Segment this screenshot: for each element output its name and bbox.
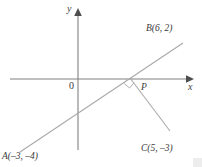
- line-segment-pc: [130, 78, 170, 131]
- line-segment-ab: [20, 43, 183, 152]
- point-label-c: C(5, –3): [141, 144, 173, 154]
- y-axis-label: y: [67, 4, 71, 14]
- coordinate-geometry-diagram: y x 0 B(6, 2) P C(5, –3) A(–3, –4): [0, 0, 202, 167]
- x-axis-label: x: [188, 82, 192, 92]
- point-label-a: A(–3, –4): [2, 152, 38, 162]
- y-axis-arrowhead: [74, 8, 82, 16]
- origin-label: 0: [69, 81, 74, 91]
- point-label-p: P: [141, 83, 147, 93]
- corner-artifact: [193, 158, 202, 167]
- point-label-b: B(6, 2): [146, 24, 172, 34]
- right-angle-marker: [124, 83, 134, 88]
